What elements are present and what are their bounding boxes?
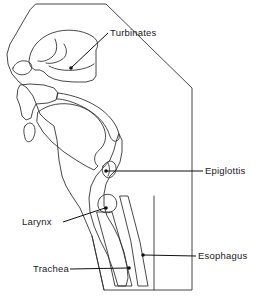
leader-line-turbinates [72, 33, 108, 67]
larynx-cavity [98, 194, 117, 212]
epiglottis-flap [102, 161, 116, 178]
anatomy-figure: Turbinates Epiglottis Larynx Esophagus T… [0, 0, 254, 300]
label-text-esophagus: Esophagus [198, 250, 247, 261]
soft-palate [57, 93, 119, 141]
anatomy-diagram-svg: Turbinates Epiglottis Larynx Esophagus T… [0, 0, 254, 300]
label-trachea[interactable]: Trachea [33, 263, 131, 274]
tongue [37, 104, 106, 170]
label-text-turbinates: Turbinates [110, 27, 157, 38]
leader-dot-turbinates [69, 66, 73, 70]
esophagus-band [120, 196, 148, 286]
label-turbinates[interactable]: Turbinates [69, 27, 156, 70]
head-soft-tissue-block [7, 4, 192, 290]
mandible-void [24, 123, 35, 142]
label-esophagus[interactable]: Esophagus [141, 250, 247, 261]
nasal-cavity [29, 30, 98, 82]
leader-dot-epiglottis [104, 169, 108, 173]
leader-dot-larynx [104, 206, 108, 210]
label-larynx[interactable]: Larynx [22, 206, 108, 227]
leader-line-trachea [70, 268, 128, 269]
nostril-void [13, 61, 32, 75]
leader-line-esophagus [144, 255, 196, 256]
label-text-larynx: Larynx [22, 216, 52, 227]
leader-dot-esophagus [141, 253, 145, 257]
label-text-trachea: Trachea [33, 263, 69, 274]
leader-dot-trachea [127, 266, 131, 270]
label-text-epiglottis: Epiglottis [205, 165, 246, 176]
label-epiglottis[interactable]: Epiglottis [104, 165, 245, 176]
